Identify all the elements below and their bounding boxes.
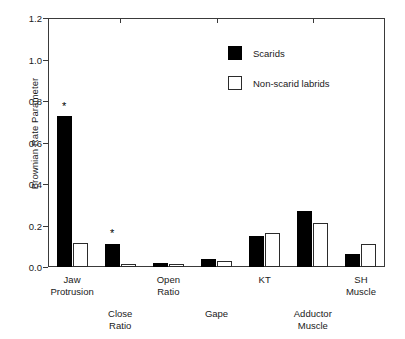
x-category-label-line2: Ratio [157, 286, 180, 298]
x-category-label-line1: Jaw [64, 274, 81, 285]
legend-item-scarids: Scarids [228, 42, 330, 64]
bar-adductor-muscle-non-scarid-labrids [313, 223, 328, 267]
x-axis-category-labels: JawProtrusionCloseRatioOpenRatioGapeKTAd… [48, 267, 385, 339]
chart-figure: Brownian Rate Parameter 0.00.20.40.60.81… [0, 0, 405, 339]
x-category-label-line2: Muscle [294, 320, 332, 332]
bar-jaw-protrusion-scarids [57, 116, 72, 267]
x-category-label-line2: Protrusion [50, 286, 93, 298]
legend-item-non-scarid-labrids: Non-scarid labrids [228, 72, 330, 94]
legend-swatch-scarids-icon [228, 46, 242, 60]
x-category-label: CloseRatio [108, 308, 132, 331]
bar-close-ratio-scarids [105, 244, 120, 267]
x-category-label: JawProtrusion [50, 274, 93, 297]
x-category-label-line2: Muscle [346, 286, 376, 298]
significance-star: * [110, 228, 114, 239]
x-category-label: AdductorMuscle [294, 308, 332, 331]
bar-sh-muscle-scarids [345, 254, 360, 267]
x-category-label-line1: Close [108, 308, 132, 319]
y-tick-label: 1.0 [0, 54, 42, 65]
x-category-label-line1: Gape [205, 308, 228, 319]
legend-label-non-scarid-labrids: Non-scarid labrids [253, 78, 330, 89]
bars-layer: ** [48, 18, 385, 267]
legend-swatch-non-scarid-labrids-icon [228, 76, 242, 90]
y-tick-label: 0.0 [0, 262, 42, 273]
legend-label-scarids: Scarids [253, 48, 285, 59]
x-category-label: SHMuscle [346, 274, 376, 297]
x-category-label: Gape [205, 308, 228, 320]
bar-adductor-muscle-scarids [297, 211, 312, 267]
bar-kt-non-scarid-labrids [265, 233, 280, 267]
x-category-label-line1: Adductor [294, 308, 332, 319]
significance-star: * [62, 101, 66, 112]
x-category-label-line1: KT [259, 274, 271, 285]
y-tick-label: 0.6 [0, 137, 42, 148]
y-tick-label: 0.8 [0, 96, 42, 107]
x-category-label-line1: Open [157, 274, 180, 285]
x-category-label: KT [259, 274, 271, 286]
x-category-label-line2: Ratio [108, 320, 132, 332]
bar-jaw-protrusion-non-scarid-labrids [73, 243, 88, 267]
bar-sh-muscle-non-scarid-labrids [361, 244, 376, 267]
chart-legend: Scarids Non-scarid labrids [228, 42, 330, 102]
bar-kt-scarids [249, 236, 264, 267]
y-tick-label: 1.2 [0, 13, 42, 24]
x-category-label-line1: SH [354, 274, 367, 285]
x-category-label: OpenRatio [157, 274, 180, 297]
bar-gape-scarids [201, 259, 216, 267]
y-tick-label: 0.4 [0, 179, 42, 190]
y-tick-label: 0.2 [0, 220, 42, 231]
